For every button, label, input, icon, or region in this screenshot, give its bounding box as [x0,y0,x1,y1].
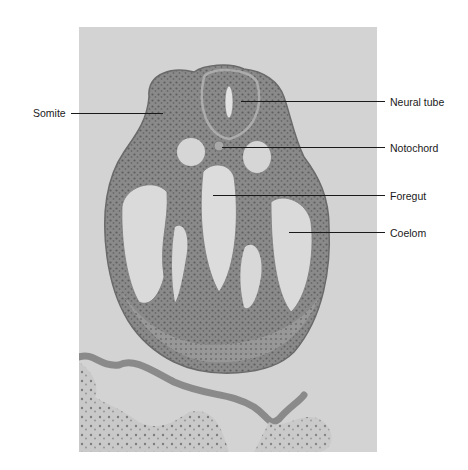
embryo-section-illustration [79,27,377,452]
leader-line-coelom [289,232,385,233]
leader-line-somite [71,113,163,114]
leader-line-neural-tube [241,101,385,102]
neural-tube-lumen [225,86,233,118]
label-coelom: Coelom [390,227,426,239]
label-foregut: Foregut [390,190,426,202]
leader-line-foregut [213,195,385,196]
label-somite: Somite [33,107,66,119]
notochord-shape [214,141,224,151]
labeled-figure: Somite Neural tube Notochord Foregut Coe… [0,0,468,470]
leader-line-notochord [222,147,385,148]
label-neural-tube: Neural tube [390,96,444,108]
micrograph [79,27,377,452]
label-notochord: Notochord [390,142,438,154]
